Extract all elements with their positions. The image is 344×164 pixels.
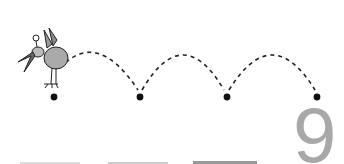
arc-2 <box>142 55 224 90</box>
bottom-lines <box>20 161 257 164</box>
dashed-arcs <box>60 52 315 90</box>
numeral-nine: 9 <box>293 96 336 164</box>
dot-2 <box>137 94 144 101</box>
dots <box>51 94 321 101</box>
arc-1 <box>60 52 138 90</box>
arc-3 <box>229 55 315 90</box>
tracing-worksheet: 9 <box>0 0 344 164</box>
bird-icon <box>18 28 68 88</box>
dot-1 <box>51 94 58 101</box>
dot-3 <box>224 94 231 101</box>
